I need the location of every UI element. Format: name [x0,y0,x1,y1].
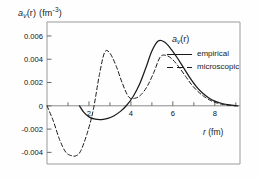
axes-frame [47,22,240,164]
x-axis-ticks [68,101,236,106]
plot-canvas: 2468 0.0060.0040.0020-0.002-0.004 [0,0,259,179]
y-axis-ticks [47,36,52,152]
figure-panel: av(r) (fm-3) r (fm) av(r) empirical micr… [0,0,259,179]
y-tick-label: 0.006 [24,32,43,41]
x-tick-label: 6 [171,109,175,118]
series-line-empirical [80,40,238,119]
y-axis-tick-labels: 0.0060.0040.0020-0.002-0.004 [21,32,43,157]
x-axis-tick-labels: 2468 [87,109,217,118]
y-tick-label: -0.002 [21,125,43,134]
series-line-microscopic [47,50,236,156]
data-series-group [47,40,238,156]
y-tick-label: 0.002 [24,78,43,87]
y-tick-label: 0 [39,102,43,111]
x-tick-label: 4 [129,109,133,118]
y-tick-label: 0.004 [24,55,43,64]
x-tick-label: 8 [213,109,217,118]
y-tick-label: -0.004 [21,148,43,157]
